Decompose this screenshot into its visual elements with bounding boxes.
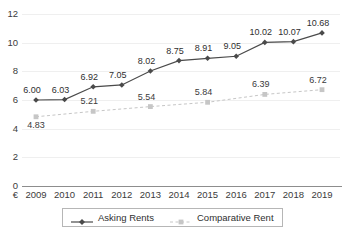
data-point-label: 9.05 [223,42,241,51]
data-point-marker [34,114,39,119]
y-axis-tick-label: 2 [0,152,18,162]
data-point-marker [119,82,125,88]
data-point-marker [262,92,267,97]
data-point-label: 8.91 [195,44,213,53]
data-point-marker [33,97,39,103]
legend-item-comparative-rent[interactable]: Comparative Rent [170,209,274,226]
y-axis-tick-label: 4 [0,124,18,134]
series-line-0 [36,33,322,100]
x-axis: 2009201020112012201320142015201620172018… [22,190,340,202]
data-point-marker [233,53,239,59]
data-point-marker [148,68,154,74]
x-axis-baseline [22,186,342,187]
x-axis-tick-label: 2019 [305,190,339,200]
data-point-label: 6.00 [23,86,41,95]
data-point-label: 10.07 [278,28,301,37]
data-point-marker [262,40,268,46]
y-axis-tick-label: 10 [0,38,18,48]
data-point-label: 6.39 [252,80,270,89]
data-point-marker [320,87,325,92]
square-marker-icon [170,213,192,223]
data-point-label: 6.03 [52,86,70,95]
data-point-marker [205,100,210,105]
diamond-marker-icon [71,213,93,223]
data-point-marker [291,39,297,45]
data-point-label: 7.05 [109,71,127,80]
data-point-label: 5.84 [195,88,213,97]
y-axis-currency-label: € [0,190,18,200]
chart-legend: Asking RentsComparative Rent [62,208,283,227]
data-point-label: 6.72 [309,76,327,85]
data-point-label: 4.83 [27,121,45,130]
legend-label: Asking Rents [98,213,154,223]
data-point-label: 8.75 [166,47,184,56]
legend-label: Comparative Rent [197,213,274,223]
data-point-marker [90,84,96,90]
data-point-label: 10.02 [250,28,273,37]
data-point-marker [319,30,325,36]
legend-item-asking-rents[interactable]: Asking Rents [71,209,154,226]
data-point-label: 10.68 [307,19,330,28]
data-point-marker [205,55,211,61]
y-axis-tick-label: 8 [0,66,18,76]
series-layer [22,14,340,186]
data-point-label: 5.21 [80,97,98,106]
y-axis-tick-label: 12 [0,9,18,19]
y-axis-tick-label: 6 [0,95,18,105]
line-chart: 024681012 € 6.006.036.927.058.028.758.91… [0,0,347,243]
data-point-marker [148,104,153,109]
data-point-label: 8.02 [138,57,156,66]
data-point-label: 5.54 [138,93,156,102]
data-point-marker [91,109,96,114]
plot-area: 6.006.036.927.058.028.758.919.0510.0210.… [22,14,340,186]
data-point-marker [176,58,182,64]
data-point-marker [62,97,68,103]
data-point-label: 6.92 [80,73,98,82]
